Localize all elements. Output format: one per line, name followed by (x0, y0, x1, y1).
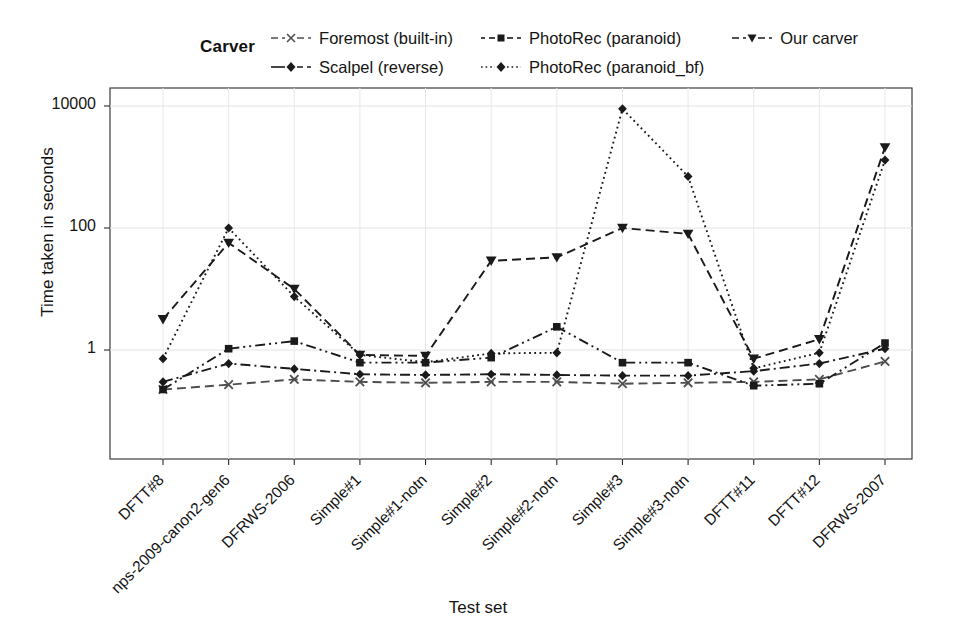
chart-figure: Carver Foremost (built-in) (0, 0, 956, 644)
y-tick-label: 100 (6, 217, 96, 235)
y-tick-label: 1 (6, 339, 96, 357)
y-tick-label: 10000 (6, 95, 96, 113)
